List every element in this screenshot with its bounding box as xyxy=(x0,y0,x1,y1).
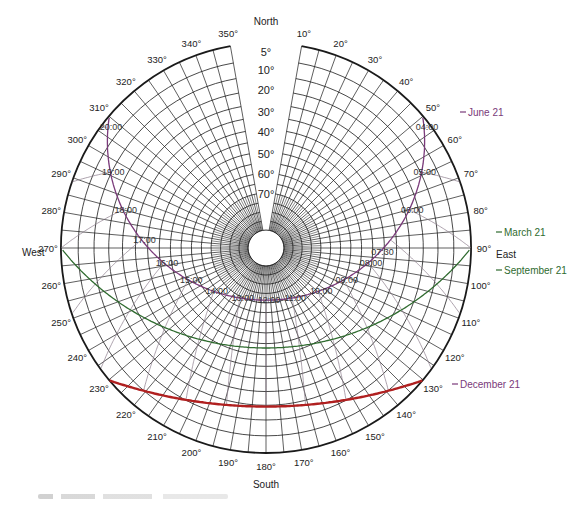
azimuth-label: 110° xyxy=(461,317,480,328)
azimuth-line xyxy=(98,258,251,365)
azimuth-label: 310° xyxy=(89,102,109,113)
azimuth-label: 260° xyxy=(41,280,61,291)
hour-label: 08:00 xyxy=(360,258,383,268)
cardinal-south: South xyxy=(253,479,279,490)
azimuth-label: 70° xyxy=(464,168,479,179)
cardinal-north: North xyxy=(254,16,278,27)
azimuth-line xyxy=(276,80,383,233)
azimuth-line xyxy=(284,230,470,246)
azimuth-label: 40° xyxy=(399,76,414,87)
altitude-label: 5° xyxy=(261,46,272,58)
azimuth-line xyxy=(109,116,252,236)
azimuth-label: 330° xyxy=(147,54,167,65)
azimuth-label: 140° xyxy=(396,409,416,420)
azimuth-label: 280° xyxy=(41,205,61,216)
hour-label: 07:30 xyxy=(371,247,394,257)
azimuth-label: 100° xyxy=(471,280,491,291)
azimuth-line xyxy=(179,62,258,232)
altitude-label: 20° xyxy=(258,84,275,96)
azimuth-label: 50° xyxy=(426,102,441,113)
azimuth-line xyxy=(148,80,255,233)
hour-line xyxy=(61,210,122,248)
hour-label: 20:00 xyxy=(100,122,123,132)
hour-label: 04:00 xyxy=(416,122,439,132)
altitude-label: 50° xyxy=(258,148,275,160)
azimuth-label: 250° xyxy=(51,317,71,328)
azimuth-label: 150° xyxy=(365,431,385,442)
hour-label: 15:00 xyxy=(180,275,203,285)
azimuth-label: 180° xyxy=(256,461,276,472)
azimuth-label: 120° xyxy=(445,352,465,363)
azimuth-line xyxy=(268,266,284,452)
legend-march: March 21 xyxy=(496,227,546,238)
legend-september: September 21 xyxy=(496,265,567,276)
azimuth-label: 90° xyxy=(477,243,492,254)
azimuth-label: 230° xyxy=(89,383,109,394)
altitude-label: 60° xyxy=(258,168,275,180)
hour-label: 14:00 xyxy=(206,286,229,296)
legend-june-label: June 21 xyxy=(468,107,504,118)
azimuth-label: 350° xyxy=(218,28,238,39)
hour-label: 16:00 xyxy=(156,258,179,268)
azimuth-label: 210° xyxy=(147,431,167,442)
altitude-label: 40° xyxy=(258,126,275,138)
hour-line xyxy=(410,210,471,248)
hour-label: 13:00 xyxy=(232,293,255,303)
azimuth-label: 200° xyxy=(182,447,202,458)
hour-line xyxy=(391,241,459,313)
hour-label: 12:00 xyxy=(258,295,281,305)
azimuth-label: 30° xyxy=(368,54,383,65)
azimuth-label: 170° xyxy=(294,457,314,468)
altitude-label: 10° xyxy=(258,64,275,76)
azimuth-line xyxy=(281,130,434,237)
hour-label: 19:00 xyxy=(102,167,125,177)
legend-december: December 21 xyxy=(452,379,520,390)
azimuth-line xyxy=(98,130,251,237)
cardinal-east: East xyxy=(496,249,516,260)
azimuth-label: 240° xyxy=(67,352,87,363)
azimuth-label: 320° xyxy=(116,76,136,87)
azimuth-line xyxy=(274,62,353,232)
azimuth-line xyxy=(271,50,319,231)
altitude-label: 70° xyxy=(258,188,275,200)
legend-september-label: September 21 xyxy=(504,265,567,276)
hour-label: 17:00 xyxy=(133,235,156,245)
azimuth-line xyxy=(134,91,254,234)
azimuth-line xyxy=(68,195,249,243)
hour-label: 09:00 xyxy=(335,275,358,285)
figure-caption-blurred xyxy=(38,494,228,499)
sun-path-diagram: North South East West June 21 March 21 S… xyxy=(0,0,577,506)
legend-june: June 21 xyxy=(460,107,504,118)
azimuth-line xyxy=(278,91,398,234)
altitude-label: 30° xyxy=(258,106,275,118)
azimuth-label: 290° xyxy=(51,168,71,179)
azimuth-label: 300° xyxy=(67,134,87,145)
legend-march-label: March 21 xyxy=(504,227,546,238)
hour-line xyxy=(73,241,141,313)
hour-label: 10:00 xyxy=(310,286,333,296)
azimuth-label: 190° xyxy=(218,457,238,468)
azimuth-label: 220° xyxy=(116,409,136,420)
azimuth-line xyxy=(283,195,464,243)
azimuth-label: 80° xyxy=(474,205,489,216)
azimuth-line xyxy=(213,50,261,231)
azimuth-label: 160° xyxy=(331,447,351,458)
azimuth-label: 130° xyxy=(423,383,443,394)
azimuth-label: 10° xyxy=(297,28,312,39)
azimuth-line xyxy=(148,263,255,416)
zenith-circle xyxy=(248,230,284,266)
azimuth-label: 60° xyxy=(448,134,463,145)
legend-december-label: December 21 xyxy=(460,379,520,390)
azimuth-line xyxy=(280,116,423,236)
azimuth-label: 340° xyxy=(182,38,202,49)
hour-label: 05:00 xyxy=(413,167,436,177)
hour-label: 06:00 xyxy=(401,205,424,215)
azimuth-label: 20° xyxy=(333,38,348,49)
hour-label: 11:00 xyxy=(284,293,306,303)
hour-label: 18:00 xyxy=(115,205,138,215)
azimuth-label: 270° xyxy=(38,243,58,254)
